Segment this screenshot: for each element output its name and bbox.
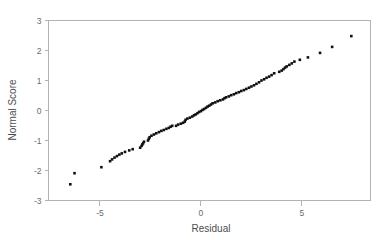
data-point <box>273 72 276 75</box>
y-tick-label: 0 <box>37 106 42 116</box>
data-point <box>155 132 158 135</box>
data-point <box>319 52 322 55</box>
data-point <box>143 140 146 143</box>
y-axis-title: Normal Score <box>7 79 18 141</box>
data-point <box>179 122 182 125</box>
x-tick-label: 0 <box>199 208 204 218</box>
data-point <box>270 74 273 77</box>
data-point <box>285 65 288 68</box>
data-point <box>243 89 246 92</box>
data-point <box>171 125 174 128</box>
data-point <box>111 158 114 161</box>
y-tick-label: -1 <box>34 136 42 146</box>
data-point <box>214 101 217 104</box>
data-point <box>245 88 248 91</box>
data-point <box>153 133 156 136</box>
data-point <box>69 183 72 186</box>
y-tick-label: -2 <box>34 166 42 176</box>
data-point <box>113 156 116 159</box>
data-point <box>290 62 293 65</box>
data-point <box>131 148 134 151</box>
data-point <box>128 149 131 152</box>
data-point <box>216 100 219 103</box>
data-point <box>230 94 233 97</box>
y-tick-label: 3 <box>37 16 42 26</box>
x-tick-label: 5 <box>299 208 304 218</box>
data-point <box>227 95 230 98</box>
data-point <box>278 71 281 74</box>
data-point <box>248 86 251 89</box>
x-axis-title: Residual <box>192 223 231 234</box>
data-point <box>250 85 253 88</box>
data-point <box>189 116 192 119</box>
data-point <box>120 152 123 155</box>
data-point <box>160 130 163 133</box>
y-tick-label: 2 <box>37 46 42 56</box>
y-tick-label: 1 <box>37 76 42 86</box>
data-point <box>240 90 243 93</box>
data-point <box>307 56 310 59</box>
data-point <box>260 79 263 82</box>
chart-background <box>0 0 376 240</box>
data-point <box>162 129 165 132</box>
data-point <box>255 83 258 86</box>
data-point <box>235 92 238 95</box>
data-point <box>124 151 127 154</box>
data-point <box>350 35 353 38</box>
data-point <box>288 64 291 67</box>
data-point <box>118 153 121 156</box>
data-point <box>293 60 296 63</box>
data-point <box>233 93 236 96</box>
data-point <box>73 172 76 175</box>
data-point <box>263 78 266 81</box>
data-point <box>165 128 168 131</box>
data-point <box>211 102 214 105</box>
chart-canvas: 3210-1-2-3 -505 Residual Normal Score <box>0 0 376 240</box>
data-point <box>150 134 153 137</box>
data-point <box>177 123 180 126</box>
data-point <box>331 46 334 49</box>
data-point <box>219 99 222 102</box>
y-tick-label: -3 <box>34 196 42 206</box>
data-point <box>268 75 271 78</box>
data-point <box>186 117 189 120</box>
data-point <box>238 91 241 94</box>
data-point <box>258 81 261 84</box>
data-point <box>158 131 161 134</box>
data-point <box>265 77 268 80</box>
x-tick-label: -5 <box>96 208 104 218</box>
data-point <box>100 166 103 169</box>
normal-probability-plot-figure: 3210-1-2-3 -505 Residual Normal Score <box>0 0 376 240</box>
data-point <box>225 96 228 99</box>
data-point <box>299 59 302 62</box>
data-point <box>116 155 119 158</box>
data-point <box>253 84 256 87</box>
